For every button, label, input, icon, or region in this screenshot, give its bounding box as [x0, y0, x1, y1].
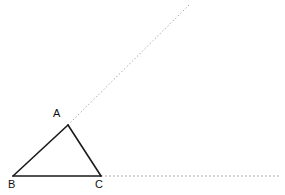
vertex-label-b: B — [8, 179, 15, 190]
geometry-figure: A B C — [0, 0, 285, 195]
dotted-ray-ba-extended — [68, 4, 190, 125]
vertex-label-a: A — [53, 108, 60, 119]
geometry-canvas — [0, 0, 285, 195]
triangle-side-ac — [68, 125, 101, 176]
triangle-side-ab — [13, 125, 68, 176]
vertex-label-c: C — [95, 179, 103, 190]
